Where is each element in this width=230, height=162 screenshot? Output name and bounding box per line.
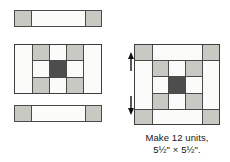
bottom-strip-cell-center-white <box>31 105 86 122</box>
bottom-strip-cell-left-gray <box>14 105 32 122</box>
center-row-unit <box>14 44 102 94</box>
block-ninepatch-r3c3-gray <box>185 93 203 110</box>
bottom-strip-cell-right-gray <box>85 105 102 122</box>
quilt-assembly-diagram: Make 12 units, 5½" × 5½". <box>0 0 230 162</box>
center-unit-right-panel <box>83 44 102 94</box>
ninepatch-r2c2-dark <box>49 60 67 78</box>
press-left-arrow <box>20 36 42 44</box>
press-right-arrow <box>70 36 92 44</box>
block-r5-bottom-strip-white <box>152 109 203 125</box>
top-strip-cell-left-gray <box>14 10 32 27</box>
block-ninepatch-r1c3-gray <box>185 60 203 77</box>
block-right-side-panel-white <box>202 60 220 110</box>
center-unit-left-panel <box>14 44 33 94</box>
ninepatch-r3c1-gray <box>32 77 50 94</box>
block-r5c5-gray <box>202 109 220 125</box>
finished-block <box>134 44 220 125</box>
ninepatch-r3c3-gray <box>66 77 84 94</box>
block-r1-top-strip-white <box>152 44 203 61</box>
block-ninepatch-r1c2-white <box>168 60 186 77</box>
top-strip-cell-right-gray <box>85 10 102 27</box>
ninepatch-r2c3-white <box>66 60 84 78</box>
bottom-sashing-strip <box>14 105 102 122</box>
block-ninepatch-r2c2-dark <box>168 76 186 94</box>
block-ninepatch-r3c2-white <box>168 93 186 110</box>
caption-line-2: 5½" × 5½". <box>125 144 229 156</box>
ninepatch-r1c1-gray <box>32 44 50 61</box>
block-ninepatch-r2c3-white <box>185 76 203 94</box>
ninepatch-r2c1-white <box>32 60 50 78</box>
caption: Make 12 units, 5½" × 5½". <box>125 132 229 156</box>
block-ninepatch-r3c1-gray <box>152 93 169 110</box>
block-left-side-panel-white <box>134 60 153 110</box>
ninepatch-r1c2-white <box>49 44 67 61</box>
block-r1c1-gray <box>134 44 153 61</box>
ninepatch-r1c3-gray <box>66 44 84 61</box>
block-ninepatch-r1c1-gray <box>152 60 169 77</box>
block-ninepatch-r2c1-white <box>152 76 169 94</box>
block-r1c5-gray <box>202 44 220 61</box>
caption-line-1: Make 12 units, <box>145 132 208 143</box>
ninepatch-r3c2-white <box>49 77 67 94</box>
top-strip-cell-center-white <box>31 10 86 27</box>
block-r5c1-gray <box>134 109 153 125</box>
top-sashing-strip <box>14 10 102 27</box>
